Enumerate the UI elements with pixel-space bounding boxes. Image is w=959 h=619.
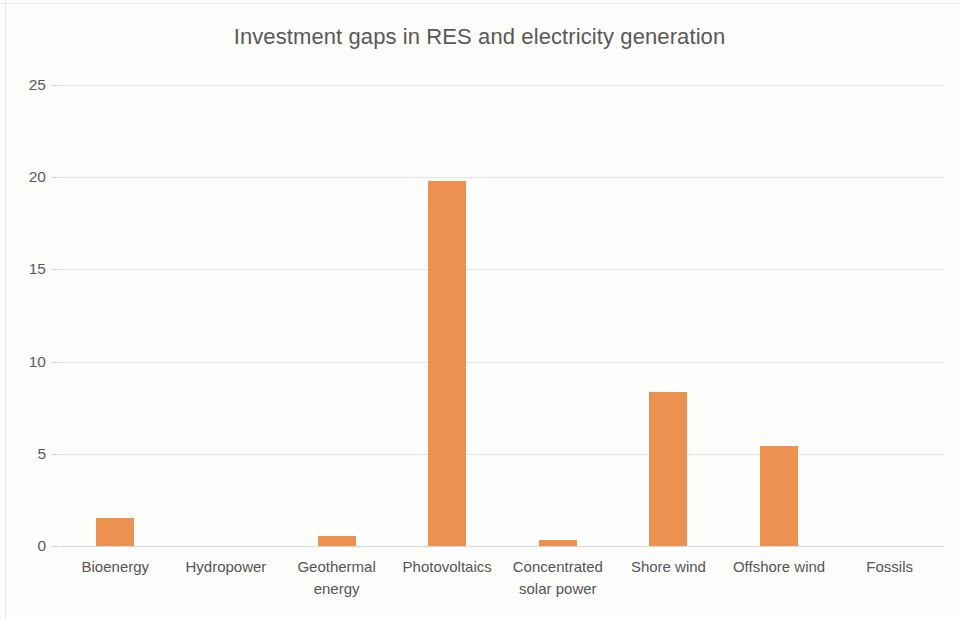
y-tick-label-0: 0 (6, 537, 46, 555)
x-tick-label: Offshore wind (718, 556, 841, 578)
x-tick-label: Bioenergy (54, 556, 177, 578)
gridline-20 (60, 177, 945, 178)
y-tick-mark-15 (51, 269, 59, 270)
y-tick-label-15: 15 (6, 260, 46, 278)
gridline-10 (60, 362, 945, 363)
bar (96, 518, 134, 546)
x-tick-label-line: Offshore wind (718, 556, 841, 578)
x-tick-label-line: Bioenergy (54, 556, 177, 578)
x-tick-label: Concentratedsolar power (497, 556, 620, 600)
y-tick-mark-10 (51, 362, 59, 363)
y-tick-label-25: 25 (6, 76, 46, 94)
y-tick-mark-5 (51, 454, 59, 455)
y-tick-label-5: 5 (6, 445, 46, 463)
bar (539, 540, 577, 546)
bar (428, 181, 466, 546)
gridline-15 (60, 269, 945, 270)
x-tick-label: Shore wind (607, 556, 730, 578)
gridline-25 (60, 85, 945, 86)
x-tick-label-line: Photovoltaics (386, 556, 509, 578)
chart-page: Investment gaps in RES and electricity g… (0, 0, 959, 619)
x-tick-label-line: Hydropower (165, 556, 288, 578)
scan-edge-top (0, 3, 959, 4)
gridline-0 (60, 546, 945, 547)
x-tick-label-line: Geothermal (275, 556, 398, 578)
x-tick-label-line: solar power (497, 578, 620, 600)
bar (649, 392, 687, 546)
y-tick-label-20: 20 (6, 168, 46, 186)
chart-title: Investment gaps in RES and electricity g… (0, 24, 959, 50)
y-tick-label-10: 10 (6, 353, 46, 371)
bar (760, 446, 798, 546)
x-tick-label: Photovoltaics (386, 556, 509, 578)
y-tick-mark-20 (51, 177, 59, 178)
x-tick-label-line: Concentrated (497, 556, 620, 578)
x-tick-label-line: Fossils (828, 556, 951, 578)
bar (318, 536, 356, 546)
y-tick-mark-25 (51, 85, 59, 86)
x-tick-label: Fossils (828, 556, 951, 578)
plot-area (60, 85, 945, 546)
gridline-5 (60, 454, 945, 455)
x-tick-label-line: Shore wind (607, 556, 730, 578)
y-tick-mark-0 (51, 546, 59, 547)
x-tick-label-line: energy (275, 578, 398, 600)
y-axis: 0510152025 (0, 85, 46, 546)
x-tick-label: Geothermalenergy (275, 556, 398, 600)
x-tick-label: Hydropower (165, 556, 288, 578)
